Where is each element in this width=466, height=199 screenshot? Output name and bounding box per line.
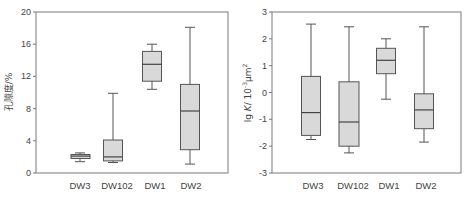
right-tick-2: 2 [262, 34, 267, 44]
right-tick-neg2: -2 [259, 141, 267, 151]
right-box-dw3 [302, 24, 321, 139]
right-tick-0: 0 [262, 88, 267, 98]
right-tick-neg1: -1 [259, 114, 267, 124]
right-cat-dw2: DW2 [415, 180, 436, 191]
right-cat-dw1: DW1 [378, 180, 399, 191]
left-tick-8: 8 [26, 104, 31, 114]
right-tick-1: 1 [262, 61, 267, 71]
left-tick-16: 16 [21, 39, 31, 49]
left-cat-dw1: DW1 [144, 180, 165, 191]
right-tick-neg3: -3 [259, 168, 267, 178]
left-chart: 0 4 8 12 16 20 孔隙度/% [3, 7, 228, 191]
right-plot-frame [272, 12, 461, 173]
left-box-dw3 [71, 153, 90, 162]
right-tick-3: 3 [262, 7, 267, 17]
left-cat-dw2: DW2 [180, 180, 201, 191]
figure: 0 4 8 12 16 20 孔隙度/% [0, 0, 466, 199]
right-cat-dw102: DW102 [337, 180, 369, 191]
right-chart: -3 -2 -1 0 1 2 3 lg K/ 10-3μm2 [241, 7, 461, 191]
left-tick-20: 20 [21, 7, 31, 17]
right-y-axis-label: lg K/ 10-3μm2 [241, 64, 253, 123]
right-box-dw2 [415, 27, 434, 142]
right-box-dw1 [377, 39, 396, 99]
left-tick-0: 0 [26, 168, 31, 178]
left-box-dw102 [104, 93, 123, 162]
left-y-axis-label: 孔隙度/% [3, 72, 14, 111]
left-y-ticks: 0 4 8 12 16 20 [21, 7, 36, 178]
left-tick-12: 12 [21, 71, 31, 81]
right-y-ticks: -3 -2 -1 0 1 2 3 [259, 7, 272, 178]
right-box-dw102 [339, 27, 359, 153]
left-tick-4: 4 [26, 136, 31, 146]
left-box-dw1 [143, 44, 162, 89]
right-cat-dw3: DW3 [302, 180, 323, 191]
left-box-dw2 [181, 27, 200, 164]
left-cat-dw102: DW102 [101, 180, 133, 191]
left-cat-dw3: DW3 [69, 180, 90, 191]
